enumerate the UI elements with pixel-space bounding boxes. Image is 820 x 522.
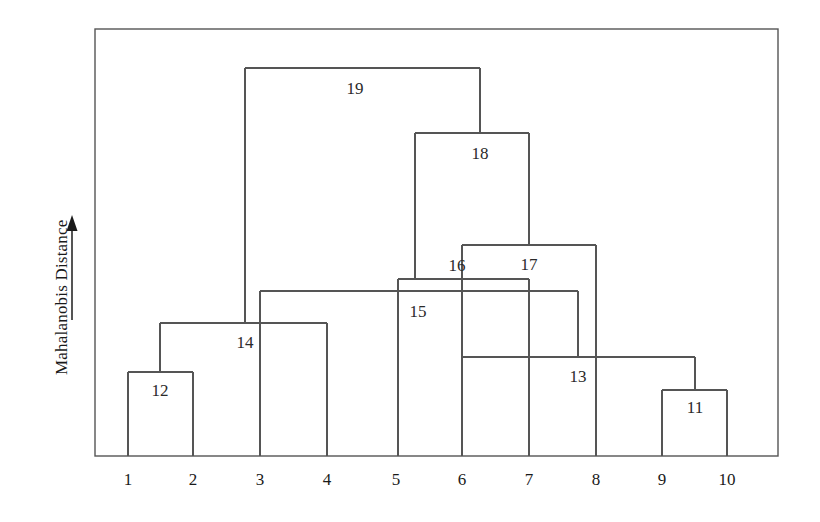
leaf-label-8: 8 — [592, 470, 601, 490]
cluster-node-label-19: 19 — [347, 79, 364, 99]
leaf-stem-group — [128, 245, 727, 456]
leaf-label-7: 7 — [525, 470, 534, 490]
dendrogram-plot — [0, 0, 820, 522]
merge-link-group — [128, 68, 727, 390]
leaf-label-3: 3 — [256, 470, 265, 490]
cluster-node-label-11: 11 — [687, 398, 703, 418]
leaf-label-1: 1 — [124, 470, 133, 490]
y-axis-title: Mahalanobis Distance — [52, 219, 72, 375]
leaf-label-6: 6 — [458, 470, 467, 490]
plot-border — [95, 29, 778, 456]
leaf-label-4: 4 — [323, 470, 332, 490]
leaf-label-10: 10 — [719, 470, 736, 490]
leaf-label-5: 5 — [392, 470, 401, 490]
cluster-node-label-15: 15 — [410, 302, 427, 322]
cluster-node-label-16: 16 — [449, 256, 466, 276]
cluster-node-label-18: 18 — [472, 144, 489, 164]
cluster-node-label-17: 17 — [521, 255, 538, 275]
cluster-node-label-14: 14 — [237, 333, 254, 353]
plot-frame — [95, 29, 778, 456]
cluster-node-label-13: 13 — [570, 367, 587, 387]
leaf-label-9: 9 — [658, 470, 667, 490]
leaf-label-2: 2 — [189, 470, 198, 490]
dendrogram-figure: Mahalanobis Distance 111213141516171819 … — [0, 0, 820, 522]
cluster-node-label-12: 12 — [152, 381, 169, 401]
